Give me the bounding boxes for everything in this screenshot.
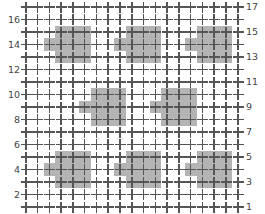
plus-marker bbox=[233, 27, 244, 38]
plus-marker bbox=[127, 89, 138, 100]
plus-marker bbox=[197, 39, 208, 50]
plus-marker bbox=[56, 102, 67, 113]
plus-marker bbox=[138, 127, 149, 138]
plus-marker bbox=[56, 52, 67, 63]
plus-marker bbox=[162, 202, 173, 213]
plus-marker bbox=[91, 164, 102, 175]
plus-marker bbox=[91, 139, 102, 150]
plus-marker bbox=[44, 102, 55, 113]
plus-marker bbox=[209, 77, 220, 88]
plus-marker bbox=[127, 2, 138, 13]
plus-marker bbox=[103, 89, 114, 100]
plus-marker bbox=[221, 77, 232, 88]
plus-marker bbox=[91, 52, 102, 63]
plus-marker bbox=[79, 164, 90, 175]
plus-marker bbox=[44, 164, 55, 175]
plus-marker bbox=[56, 152, 67, 163]
plus-marker bbox=[21, 14, 32, 25]
plus-marker bbox=[79, 139, 90, 150]
plus-marker bbox=[91, 152, 102, 163]
plus-marker bbox=[21, 114, 32, 125]
plus-marker bbox=[32, 64, 43, 75]
plus-marker bbox=[138, 139, 149, 150]
plus-marker bbox=[56, 27, 67, 38]
plus-marker bbox=[103, 102, 114, 113]
plus-marker bbox=[174, 127, 185, 138]
plus-marker bbox=[79, 202, 90, 213]
plus-marker bbox=[79, 114, 90, 125]
plus-marker bbox=[162, 102, 173, 113]
plus-marker bbox=[103, 114, 114, 125]
plus-marker bbox=[56, 89, 67, 100]
plus-marker bbox=[44, 52, 55, 63]
plus-marker bbox=[174, 139, 185, 150]
plus-marker bbox=[91, 202, 102, 213]
plus-marker bbox=[150, 39, 161, 50]
plus-marker bbox=[56, 164, 67, 175]
plus-marker bbox=[91, 39, 102, 50]
plus-marker bbox=[44, 127, 55, 138]
plus-marker bbox=[174, 27, 185, 38]
plus-marker bbox=[209, 152, 220, 163]
right-axis-tick-label: 11 bbox=[246, 77, 258, 87]
plus-marker bbox=[32, 114, 43, 125]
plus-marker bbox=[21, 139, 32, 150]
plus-marker bbox=[221, 52, 232, 63]
plus-marker bbox=[68, 14, 79, 25]
plus-marker bbox=[174, 164, 185, 175]
plus-marker bbox=[209, 202, 220, 213]
plus-marker bbox=[68, 114, 79, 125]
plus-marker bbox=[174, 102, 185, 113]
right-axis: 1715131197531 bbox=[243, 7, 265, 207]
plus-marker bbox=[221, 177, 232, 188]
plus-marker bbox=[209, 52, 220, 63]
plus-marker bbox=[221, 139, 232, 150]
plus-marker bbox=[209, 139, 220, 150]
plus-marker bbox=[21, 89, 32, 100]
plus-marker bbox=[44, 77, 55, 88]
plus-marker bbox=[44, 27, 55, 38]
plus-marker bbox=[79, 127, 90, 138]
plus-marker bbox=[233, 189, 244, 200]
plus-marker bbox=[32, 77, 43, 88]
plus-marker bbox=[162, 152, 173, 163]
plus-marker bbox=[174, 114, 185, 125]
plus-marker bbox=[68, 89, 79, 100]
plus-marker bbox=[185, 27, 196, 38]
plus-marker bbox=[221, 27, 232, 38]
plus-marker bbox=[209, 127, 220, 138]
plus-marker bbox=[32, 177, 43, 188]
plus-marker bbox=[221, 102, 232, 113]
plus-marker bbox=[233, 152, 244, 163]
left-axis-tick-label: 4 bbox=[14, 165, 20, 175]
plus-marker bbox=[79, 64, 90, 75]
plus-marker bbox=[32, 14, 43, 25]
plus-marker bbox=[103, 27, 114, 38]
plus-marker bbox=[138, 2, 149, 13]
plus-marker bbox=[21, 102, 32, 113]
plus-marker bbox=[32, 39, 43, 50]
plus-marker bbox=[68, 39, 79, 50]
plus-marker bbox=[197, 189, 208, 200]
plus-marker bbox=[21, 202, 32, 213]
plus-marker bbox=[44, 202, 55, 213]
plus-marker bbox=[68, 77, 79, 88]
plus-marker bbox=[185, 2, 196, 13]
plus-marker bbox=[44, 189, 55, 200]
plus-marker bbox=[150, 189, 161, 200]
plus-marker bbox=[21, 189, 32, 200]
plus-marker bbox=[115, 14, 126, 25]
plus-marker bbox=[44, 2, 55, 13]
plus-marker bbox=[233, 177, 244, 188]
plus-marker bbox=[32, 127, 43, 138]
plus-marker bbox=[162, 127, 173, 138]
plus-marker bbox=[68, 27, 79, 38]
plus-marker bbox=[127, 27, 138, 38]
plus-marker bbox=[79, 89, 90, 100]
plus-marker bbox=[138, 202, 149, 213]
plus-marker bbox=[209, 114, 220, 125]
plus-marker bbox=[185, 189, 196, 200]
plus-marker bbox=[233, 127, 244, 138]
plus-marker bbox=[56, 139, 67, 150]
plus-marker bbox=[150, 2, 161, 13]
